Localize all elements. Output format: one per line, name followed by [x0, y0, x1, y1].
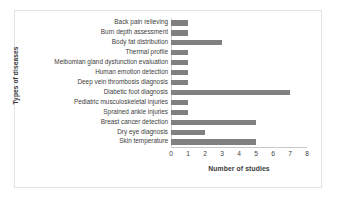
x-tick-label: 4 — [231, 150, 247, 157]
bar-row: Sprained ankle injuries — [171, 107, 307, 117]
bar — [171, 60, 188, 65]
bar — [171, 90, 290, 95]
bar-row: Deep vein thrombosis diagnosis — [171, 78, 307, 88]
x-tick-label: 1 — [180, 150, 196, 157]
bar-row: Human emotion detection — [171, 68, 307, 78]
x-axis-tick-labels: 012345678 — [171, 150, 307, 160]
x-tick-label: 6 — [265, 150, 281, 157]
x-tick-label: 8 — [299, 150, 315, 157]
category-label: Body fat distribution — [112, 38, 168, 46]
bar — [171, 139, 256, 144]
bar — [171, 20, 188, 25]
category-label: Deep vein thrombosis diagnosis — [77, 78, 168, 86]
category-label: Human emotion detection — [95, 68, 168, 76]
category-label: Skin temperature — [119, 137, 168, 145]
bar-row: Thermal profile — [171, 48, 307, 58]
bar — [171, 100, 188, 105]
bar — [171, 30, 188, 35]
x-axis-line — [171, 147, 307, 148]
bar — [171, 120, 256, 125]
bar — [171, 50, 188, 55]
category-label: Breast cancer detection — [101, 118, 168, 126]
bar-row: Back pain relieving — [171, 18, 307, 28]
category-label: Diabetic foot diagnosis — [104, 88, 168, 96]
bar-row: Skin temperature — [171, 137, 307, 147]
x-tick-label: 5 — [248, 150, 264, 157]
x-tick-label: 7 — [282, 150, 298, 157]
x-tick-label: 2 — [197, 150, 213, 157]
category-label: Meibomian gland dysfunction evaluation — [54, 58, 168, 66]
bar — [171, 130, 205, 135]
category-label: Thermal profile — [125, 48, 168, 56]
bar-row: Pediatric musculoskeletal injuries — [171, 97, 307, 107]
bar — [171, 110, 188, 115]
x-tick-label: 0 — [163, 150, 179, 157]
y-axis-title: Types of diseases — [12, 28, 19, 124]
category-label: Sprained ankle injuries — [103, 108, 168, 116]
bar — [171, 40, 222, 45]
bar-row: Breast cancer detection — [171, 117, 307, 127]
bar-row: Meibomian gland dysfunction evaluation — [171, 58, 307, 68]
category-label: Back pain relieving — [114, 18, 168, 26]
bar-row: Body fat distribution — [171, 38, 307, 48]
bar — [171, 70, 188, 75]
category-label: Dry eye diagnosis — [117, 128, 168, 136]
bar-row: Dry eye diagnosis — [171, 127, 307, 137]
x-axis-title: Number of studies — [171, 165, 307, 172]
category-label: Pediatric musculoskeletal injuries — [74, 98, 168, 106]
plot-area: Back pain relievingBurn depth assessment… — [171, 18, 307, 147]
bar-row: Burn depth assessment — [171, 28, 307, 38]
bar-row: Diabetic foot diagnosis — [171, 87, 307, 97]
x-tick-label: 3 — [214, 150, 230, 157]
bar-chart-figure: Types of diseases Back pain relievingBur… — [0, 0, 338, 198]
bar — [171, 80, 188, 85]
category-label: Burn depth assessment — [101, 28, 168, 36]
